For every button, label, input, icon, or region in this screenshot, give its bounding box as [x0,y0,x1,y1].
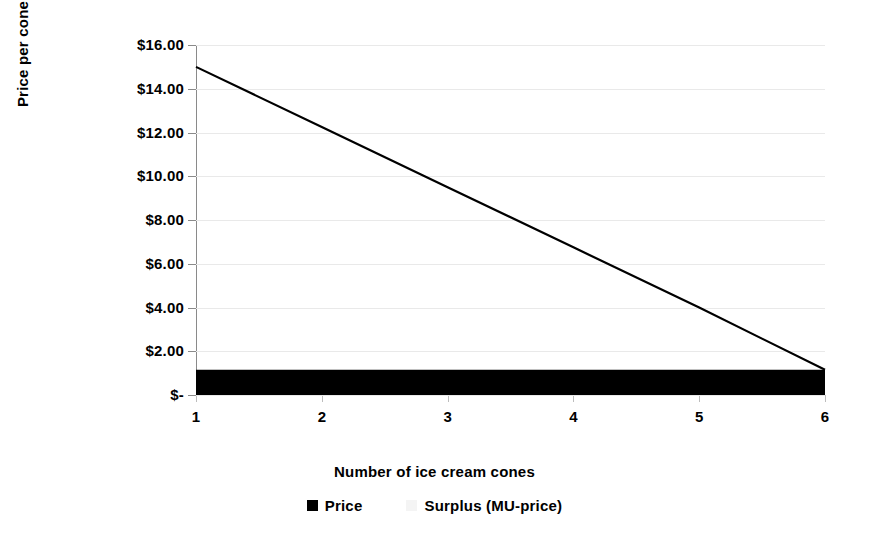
x-axis-tick-label: 5 [679,408,719,425]
x-axis-title: Number of ice cream cones [0,463,869,480]
y-axis-tick-label: $4.00 [92,300,184,315]
y-axis-tick-label: $- [92,387,184,402]
y-axis-tick-label: $14.00 [92,81,184,96]
series-surplus-line [196,67,825,370]
chart-legend: PriceSurplus (MU-price) [0,497,869,514]
y-axis-tick-mark [188,308,196,309]
y-axis-tick-mark [188,89,196,90]
x-axis-tick-mark [573,396,574,402]
x-axis-tick-label: 4 [553,408,593,425]
y-axis-tick-label: $2.00 [92,343,184,358]
y-axis-tick-label: $12.00 [92,125,184,140]
x-axis-tick-mark [196,396,197,402]
y-axis-tick-label: $10.00 [92,168,184,183]
y-axis-tick-mark [188,351,196,352]
light-square-icon [406,500,417,511]
x-axis-tick-label: 2 [302,408,342,425]
x-axis-tick-mark [825,396,826,402]
y-axis-tick-mark [188,133,196,134]
series-layer [196,45,825,395]
plot-area [196,45,825,395]
x-axis-tick-mark [699,396,700,402]
x-axis-tick-mark [448,396,449,402]
legend-label: Price [325,497,363,514]
y-axis-tick-mark [188,176,196,177]
x-axis-tick-label: 6 [805,408,845,425]
y-axis-tick-mark [188,220,196,221]
x-axis-tick-mark [322,396,323,402]
y-axis-tick-label: $6.00 [92,256,184,271]
gridline [196,395,825,396]
legend-entry: Price [307,497,363,514]
y-axis-tick-mark [188,264,196,265]
y-axis-tick-label: $8.00 [92,212,184,227]
legend-label: Surplus (MU-price) [424,497,562,514]
y-axis-tick-mark [188,395,196,396]
y-axis-tick-mark [188,45,196,46]
y-axis-tick-label: $16.00 [92,37,184,52]
legend-entry: Surplus (MU-price) [406,497,562,514]
series-price-area [196,370,825,395]
x-axis-tick-label: 3 [428,408,468,425]
black-square-icon [307,500,318,511]
x-axis-tick-label: 1 [176,408,216,425]
chart-figure: Price per cone $-$2.00$4.00$6.00$8.00$10… [0,0,869,553]
y-axis-title: Price per cone [14,0,38,154]
